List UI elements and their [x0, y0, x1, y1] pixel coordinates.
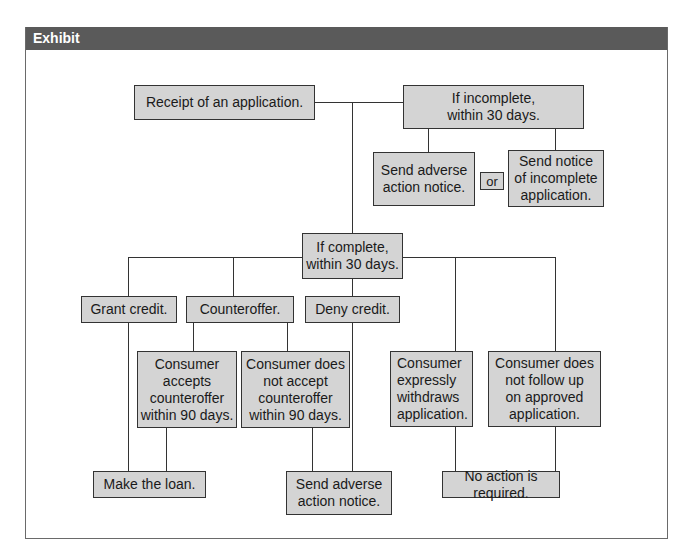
connector [402, 257, 555, 258]
connector [233, 257, 234, 296]
node-receipt-of-application: Receipt of an application. [134, 85, 315, 120]
node-if-incomplete: If incomplete, within 30 days. [403, 85, 584, 129]
connector [352, 322, 353, 471]
connector [312, 427, 313, 471]
connector [128, 257, 129, 296]
connector [555, 128, 556, 150]
connector [166, 427, 167, 471]
connector [555, 257, 556, 351]
connector [455, 257, 456, 351]
node-send-notice-incomplete: Send notice of incomplete application. [508, 150, 604, 207]
connector [352, 102, 353, 233]
connector [193, 322, 194, 351]
node-make-the-loan: Make the loan. [93, 471, 206, 498]
node-counteroffer: Counteroffer. [186, 296, 294, 323]
connector [455, 426, 456, 471]
connector [428, 128, 429, 152]
connector [314, 102, 403, 103]
node-consumer-does-not-accept-counteroffer: Consumer does not accept counteroffer wi… [241, 351, 350, 428]
connector [128, 322, 129, 471]
node-send-adverse-action-bottom: Send adverse action notice. [286, 471, 392, 515]
node-if-complete: If complete, within 30 days. [302, 233, 403, 279]
node-no-action-required: No action is required. [442, 471, 560, 498]
connector [352, 278, 353, 296]
connector [128, 257, 302, 258]
node-consumer-withdraws: Consumer expressly withdraws application… [390, 351, 473, 427]
node-consumer-no-follow-up: Consumer does not follow up on approved … [488, 351, 601, 427]
node-consumer-accepts-counteroffer: Consumer accepts counteroffer within 90 … [137, 351, 237, 428]
connector [555, 426, 556, 471]
connector [287, 322, 288, 351]
node-grant-credit: Grant credit. [81, 296, 177, 323]
node-deny-credit: Deny credit. [305, 296, 400, 323]
node-send-adverse-action-top: Send adverse action notice. [373, 152, 475, 206]
or-label: or [480, 172, 504, 190]
